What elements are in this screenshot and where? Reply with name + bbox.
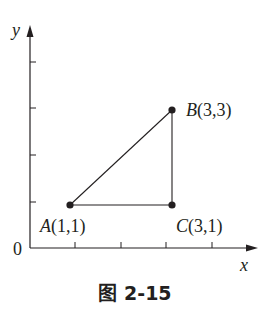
x-axis-label: x bbox=[239, 255, 248, 275]
x-ticks bbox=[75, 242, 212, 248]
point-a-label: A(1,1) bbox=[39, 216, 86, 237]
y-axis-arrow-icon bbox=[27, 25, 34, 37]
point-a bbox=[66, 201, 73, 208]
point-c bbox=[168, 201, 175, 208]
coordinate-diagram: y x 0 B(3,3) A(1,1) C(3,1) 图 2-15 bbox=[0, 0, 270, 311]
x-axis-arrow-icon bbox=[246, 245, 258, 252]
point-c-label: C(3,1) bbox=[176, 216, 223, 237]
point-b bbox=[168, 106, 175, 113]
y-axis-label: y bbox=[10, 20, 20, 40]
point-b-label: B(3,3) bbox=[186, 100, 232, 121]
segment-ab bbox=[70, 110, 172, 205]
origin-label: 0 bbox=[13, 239, 22, 259]
figure-caption: 图 2-15 bbox=[98, 282, 171, 304]
triangle-abc bbox=[70, 110, 172, 205]
y-ticks bbox=[30, 62, 36, 202]
